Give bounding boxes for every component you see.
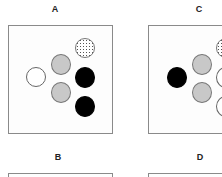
circle-gray bbox=[192, 82, 212, 103]
panel-label-b: B bbox=[48, 152, 68, 162]
panel-label-d: D bbox=[190, 152, 210, 162]
circle-black bbox=[167, 67, 187, 88]
panel-label-a: A bbox=[45, 4, 65, 14]
panel-d bbox=[148, 173, 222, 177]
circle-white bbox=[216, 67, 222, 88]
circle-black bbox=[75, 67, 95, 88]
panel-label-c: C bbox=[189, 4, 209, 14]
circle-dotted bbox=[75, 38, 95, 58]
circle-gray bbox=[192, 54, 212, 75]
circle-black bbox=[75, 96, 95, 117]
circle-white bbox=[216, 96, 222, 117]
panel-b bbox=[8, 173, 113, 177]
circle-white bbox=[26, 67, 46, 87]
circle-dotted bbox=[216, 38, 222, 58]
circle-gray bbox=[51, 82, 71, 103]
circle-gray bbox=[51, 54, 71, 75]
panel-c bbox=[148, 25, 222, 134]
panel-a bbox=[8, 25, 113, 134]
